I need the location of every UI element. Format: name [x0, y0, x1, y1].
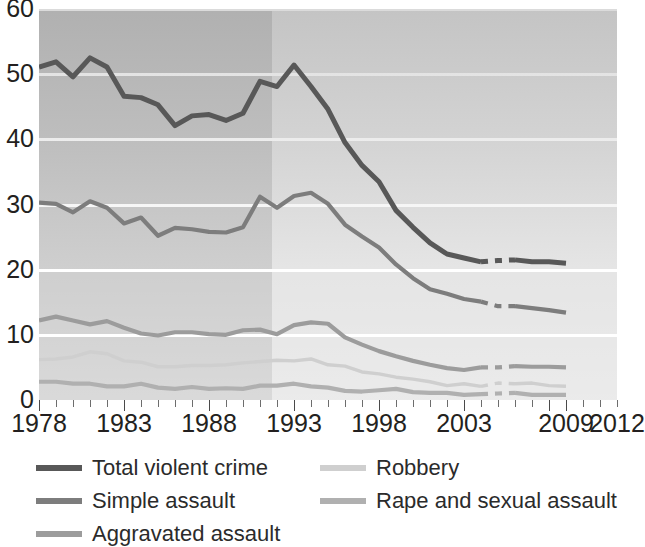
- series-line-4: [39, 382, 481, 395]
- legend-label: Simple assault: [92, 488, 235, 514]
- series-line-1: [515, 306, 566, 313]
- x-tick-2002: [447, 400, 448, 407]
- plot-area: [39, 9, 617, 400]
- x-tick-1992: [277, 400, 278, 407]
- x-tick-2012: [617, 400, 618, 407]
- x-tick-1987: [192, 400, 193, 407]
- x-label-1993: 1993: [254, 409, 334, 437]
- legend-item-simple-assault[interactable]: Simple assault: [36, 488, 235, 514]
- legend-swatch-icon: [36, 498, 82, 504]
- x-tick-1984: [141, 400, 142, 407]
- series-line-2-dashed: [481, 366, 515, 367]
- x-tick-1986: [175, 400, 176, 407]
- series-line-1-dashed: [481, 302, 515, 307]
- legend-item-total-violent-crime[interactable]: Total violent crime: [36, 455, 268, 481]
- x-label-2003: 2003: [424, 409, 504, 437]
- series-lines: [39, 9, 617, 400]
- y-tick-50: 50: [0, 61, 34, 86]
- x-tick-1989: [226, 400, 227, 407]
- x-tick-1997: [362, 400, 363, 407]
- x-label-1988: 1988: [169, 409, 249, 437]
- x-tick-2007: [532, 400, 533, 407]
- chart-canvas: 0102030405060 19781983198819931998200320…: [0, 0, 645, 420]
- series-line-2: [515, 366, 566, 367]
- series-line-0: [39, 58, 481, 262]
- x-tick-2000: [413, 400, 414, 407]
- x-label-2012: 2012: [577, 409, 645, 437]
- series-line-4-dashed: [481, 393, 515, 394]
- legend-item-robbery[interactable]: Robbery: [320, 455, 459, 481]
- y-tick-40: 40: [0, 126, 34, 151]
- x-tick-2006: [515, 400, 516, 407]
- y-tick-60: 60: [0, 0, 34, 21]
- series-line-3-dashed: [481, 383, 515, 386]
- y-tick-30: 30: [0, 192, 34, 217]
- series-line-0-dashed: [481, 260, 515, 262]
- x-tick-2005: [498, 400, 499, 407]
- x-label-1998: 1998: [339, 409, 419, 437]
- x-tick-1999: [396, 400, 397, 407]
- legend-swatch-icon: [36, 531, 82, 537]
- x-tick-2011: [600, 400, 601, 407]
- legend-label: Rape and sexual assault: [376, 488, 617, 514]
- y-tick-10: 10: [0, 322, 34, 347]
- x-label-1978: 1978: [0, 409, 79, 437]
- x-tick-1995: [328, 400, 329, 407]
- x-tick-1996: [345, 400, 346, 407]
- legend-label: Aggravated assault: [92, 521, 280, 547]
- series-line-3: [515, 383, 566, 386]
- legend-swatch-icon: [320, 465, 366, 471]
- x-tick-1991: [260, 400, 261, 407]
- y-tick-20: 20: [0, 257, 34, 282]
- x-tick-1981: [90, 400, 91, 407]
- legend-label: Total violent crime: [92, 455, 268, 481]
- series-line-3: [39, 352, 481, 387]
- legend-swatch-icon: [320, 498, 366, 504]
- x-tick-1980: [73, 400, 74, 407]
- x-tick-1982: [107, 400, 108, 407]
- series-line-1: [39, 193, 481, 302]
- legend-item-rape-and-sexual-assault[interactable]: Rape and sexual assault: [320, 488, 617, 514]
- x-label-1983: 1983: [84, 409, 164, 437]
- legend-item-aggravated-assault[interactable]: Aggravated assault: [36, 521, 280, 547]
- x-tick-1979: [56, 400, 57, 407]
- x-tick-1994: [311, 400, 312, 407]
- chart-legend: Total violent crimeSimple assaultAggrava…: [0, 455, 645, 541]
- legend-swatch-icon: [36, 465, 82, 471]
- x-tick-2010: [583, 400, 584, 407]
- x-tick-2001: [430, 400, 431, 407]
- x-tick-1990: [243, 400, 244, 407]
- series-line-4: [515, 393, 566, 395]
- x-tick-1985: [158, 400, 159, 407]
- legend-label: Robbery: [376, 455, 459, 481]
- series-line-0: [515, 260, 566, 263]
- x-tick-2004: [481, 400, 482, 407]
